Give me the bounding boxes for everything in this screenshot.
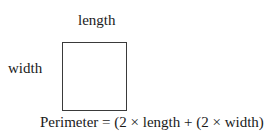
rectangle-shape xyxy=(62,42,127,111)
width-label: width xyxy=(8,60,42,76)
length-label: length xyxy=(78,12,116,28)
perimeter-formula: Perimeter = (2 × length + (2 × width) xyxy=(40,114,264,130)
